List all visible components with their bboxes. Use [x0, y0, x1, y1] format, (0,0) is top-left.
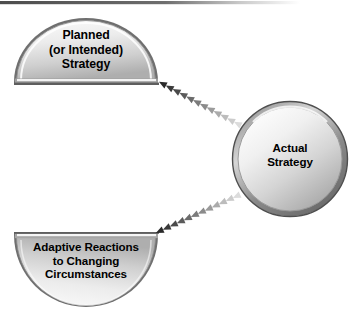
node-actual-strategy — [233, 102, 348, 217]
planned-shape-body — [17, 20, 156, 82]
strategy-diagram: Planned (or Intended) Strategy Actual St… — [0, 0, 359, 319]
diagram-vector-layer — [0, 0, 359, 319]
actual-circle-face — [238, 107, 342, 211]
adaptive-top-highlight — [17, 234, 156, 236]
node-adaptive-reactions — [14, 232, 159, 307]
planned-base-shadow — [14, 83, 159, 85]
planned-base-highlight — [17, 79, 156, 81]
connector-adaptive-to-actual — [154, 191, 241, 236]
adaptive-shape-body — [17, 236, 156, 306]
connector-planned-to-actual — [157, 79, 242, 129]
adaptive-top-shadow — [14, 232, 159, 234]
top-border-rule — [0, 1, 300, 4]
node-planned-strategy — [14, 18, 159, 85]
